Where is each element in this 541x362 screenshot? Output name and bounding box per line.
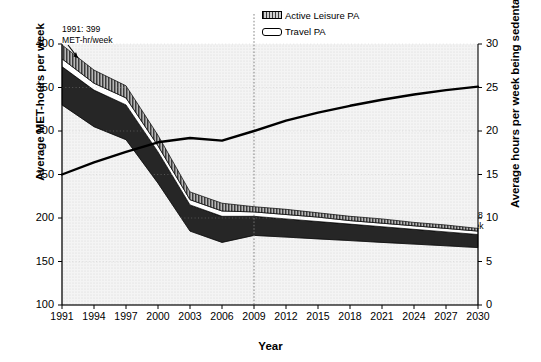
x-axis-tick-label: 2030 — [458, 310, 498, 322]
y-axis-right-tick-label: 0 — [486, 298, 516, 310]
y-axis-right-tick-label: 25 — [486, 81, 516, 93]
y-axis-right-tick-label: 10 — [486, 211, 516, 223]
chart-figure: Average MET-hours per week Average hours… — [0, 0, 541, 362]
y-axis-left-tick-label: 100 — [18, 298, 54, 310]
y-axis-left-tick-label: 200 — [18, 211, 54, 223]
y-axis-right-tick-label: 5 — [486, 255, 516, 267]
y-axis-right-tick-label: 20 — [486, 124, 516, 136]
y-axis-left-tick-label: 350 — [18, 81, 54, 93]
y-axis-left-tick-label: 250 — [18, 168, 54, 180]
y-axis-right-tick-label: 15 — [486, 168, 516, 180]
chart-plot-area — [0, 0, 541, 362]
y-axis-left-tick-label: 150 — [18, 255, 54, 267]
y-axis-right-tick-label: 30 — [486, 37, 516, 49]
y-axis-left-tick-label: 300 — [18, 124, 54, 136]
y-axis-left-tick-label: 400 — [18, 37, 54, 49]
